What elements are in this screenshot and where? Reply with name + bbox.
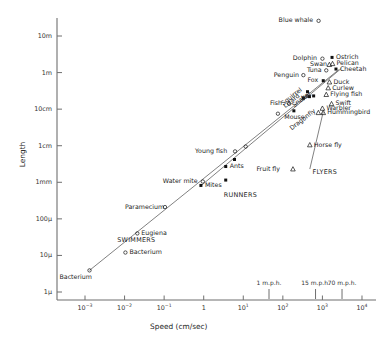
marker-open-circle [325,69,328,72]
marker-open-circle [233,150,236,153]
x-tick-label: 10−1 [152,304,176,312]
point-label: Bacterium [129,249,161,255]
y-axis-ticks [57,36,62,292]
marker-open-circle [302,73,305,76]
group-annotation: RUNNERS [224,191,257,199]
x-tick-label: 103 [310,304,334,312]
animal-speed-length-chart: BacteriumBacteriumEugienaParameciumWater… [0,0,383,338]
point-label: Bacterium [59,274,91,280]
marker-filled-square [331,56,334,59]
point-label: Mites [205,182,222,188]
point-label: Tuna [307,67,322,73]
marker-filled-square [334,68,337,71]
x-tick-label: 104 [350,304,374,312]
point-label: Young fish [195,148,227,154]
marker-open-triangle [327,80,332,84]
point-label: Duck [333,79,349,85]
point-label: Ants [230,163,244,169]
marker-filled-square [224,165,227,168]
point-label: Paramecium [125,204,164,210]
mph-tick-label: 1 m.p.h. [253,279,285,286]
mph-axis-ticks [269,289,342,299]
marker-open-triangle [291,167,296,171]
x-axis-ticks [85,296,362,301]
y-tick-label: 10m [0,32,52,40]
marker-open-circle [276,112,279,115]
marker-filled-square [233,158,236,161]
point-label: Blue whale [279,17,314,23]
point-label: Swift [336,100,351,106]
y-tick-label: 1μ [0,288,52,296]
x-axis-title: Speed (cm/sec) [150,322,208,331]
marker-filled-square [292,109,295,112]
x-tick-label: 10−2 [113,304,137,312]
marker-open-triangle [330,61,335,65]
point-label: Water mite [163,178,198,184]
point-label: Fox [307,77,318,83]
marker-filled-square [224,179,227,182]
mph-tick-label: 70 m.p.h. [326,279,358,286]
y-tick-label: 100μ [0,215,52,223]
point-label: Horse fly [314,142,342,148]
x-tick-label: 1 [192,304,216,312]
point-label: Fruit fly [256,166,280,172]
x-tick-label: 102 [271,304,295,312]
point-label: Swan [310,61,327,67]
marker-open-triangle [308,143,313,147]
group-annotation: FLYERS [312,168,337,176]
marker-filled-square [199,184,202,187]
marker-filled-square [322,79,325,82]
point-label: Penguin [274,72,299,78]
marker-open-triangle [324,92,329,96]
marker-open-circle [124,251,127,254]
x-tick-label: 10−3 [73,304,97,312]
group-annotation: SWIMMERS [117,236,155,244]
point-label: Dolphin [293,55,317,61]
marker-open-triangle [326,86,331,90]
y-tick-label: 1m [0,69,52,77]
y-tick-label: 10cm [0,105,52,113]
marker-open-circle [244,145,247,148]
point-label: Flying fish [330,91,362,97]
point-label: Ostrich [336,54,359,60]
y-tick-label: 10μ [0,251,52,259]
marker-open-triangle [320,106,325,110]
y-axis-title: Length [18,125,27,185]
marker-open-circle [317,19,320,22]
point-label: Curlew [332,85,354,91]
point-label: Pelican [337,60,359,66]
x-tick-label: 101 [231,304,255,312]
